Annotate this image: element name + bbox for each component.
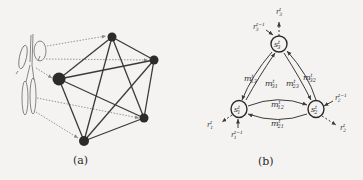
label-m23: mt23 xyxy=(286,78,299,89)
label-r1-t: rt1 xyxy=(207,120,213,130)
graph-edges xyxy=(59,37,154,141)
label-m12: mt12 xyxy=(271,99,284,110)
panel-b: st3 st1 st2 mt13 mt31 mt23 mt32 mt12 mt2… xyxy=(207,7,347,168)
label-r3-t: rt3 xyxy=(276,7,282,17)
svg-text:st2: st2 xyxy=(311,104,318,115)
node-s1: st1 xyxy=(231,101,247,118)
label-r3-prev: rt−13 xyxy=(253,22,265,32)
label-m31: mt31 xyxy=(265,78,278,89)
label-m32: mt32 xyxy=(303,72,316,83)
caption-a: (a) xyxy=(73,154,88,167)
label-r2-prev: rt−12 xyxy=(335,93,347,103)
graph-nodes xyxy=(53,33,159,147)
caption-b: (b) xyxy=(258,155,274,168)
svg-text:st3: st3 xyxy=(274,39,281,50)
node-bottom xyxy=(79,136,89,146)
human-figure-icon xyxy=(16,34,46,115)
node-bottom-right xyxy=(140,114,149,123)
panel-a: (a) xyxy=(16,33,159,168)
label-r2-t: rt2 xyxy=(340,123,346,133)
node-s3: st3 xyxy=(271,36,287,52)
svg-text:st1: st1 xyxy=(234,104,241,115)
node-top xyxy=(108,33,117,42)
figure: (a) st3 st1 st2 mt13 xyxy=(0,0,363,180)
label-r1-prev: rt−11 xyxy=(231,130,243,140)
node-s2: st2 xyxy=(308,101,324,118)
node-right xyxy=(150,56,159,65)
node-left xyxy=(53,73,66,86)
